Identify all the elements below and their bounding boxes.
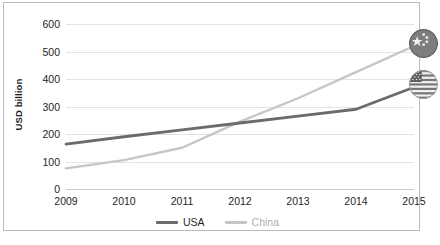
x-axis-tick-label: 2015 [388, 195, 440, 207]
grid-line [66, 134, 414, 135]
grid-line [66, 107, 414, 108]
source-caption [5, 236, 215, 244]
y-axis-tick-label: 0 [28, 184, 60, 194]
plot-area [4, 3, 431, 245]
y-axis-tick-label: 600 [28, 19, 60, 29]
grid-line [66, 52, 414, 53]
x-axis-tick-label: 2014 [330, 195, 382, 207]
x-axis-tick-label: 2010 [98, 195, 150, 207]
x-axis-line [66, 189, 414, 190]
y-axis-tick-label: 500 [28, 47, 60, 57]
y-axis-label: USD billion [13, 65, 24, 145]
grid-line [66, 79, 414, 80]
grid-line [66, 24, 414, 25]
x-axis-tick-label: 2013 [272, 195, 324, 207]
usa-flag-icon [409, 70, 438, 99]
legend-swatch [156, 221, 178, 224]
x-axis-tick-label: 2012 [214, 195, 266, 207]
series-line-usa [66, 87, 414, 144]
x-axis-tick-label: 2009 [40, 195, 92, 207]
china-flag-icon [409, 29, 438, 58]
legend-label: China [252, 217, 279, 228]
chart-legend: USAChina [4, 217, 431, 228]
y-axis-tick-label: 100 [28, 157, 60, 167]
grid-line [66, 162, 414, 163]
legend-label: USA [183, 217, 205, 228]
y-axis-tick-label: 300 [28, 102, 60, 112]
y-axis-tick-label: 400 [28, 74, 60, 84]
chart-frame: USD billion 0100200300400500600 20092010… [3, 2, 420, 231]
legend-swatch [225, 221, 247, 224]
x-axis-tick-label: 2011 [156, 195, 208, 207]
legend-item-usa[interactable]: USA [156, 217, 205, 228]
y-axis-tick-label: 200 [28, 129, 60, 139]
legend-item-china[interactable]: China [225, 217, 279, 228]
